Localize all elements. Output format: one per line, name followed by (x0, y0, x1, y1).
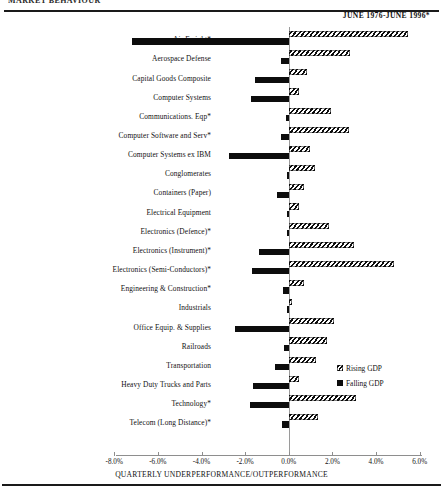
category-label: Engineering & Construction* (121, 284, 211, 293)
x-tick-mark (332, 452, 333, 456)
chart-page: MARKET BEHAVIOUR JUNE 1976-JUNE 1996* Ai… (0, 0, 443, 496)
chart-row: Technology* (0, 394, 443, 413)
x-tick-mark (420, 452, 421, 456)
bar-rising-gdp (289, 414, 318, 420)
category-label: Containers (Paper) (154, 188, 211, 197)
x-tick-mark (245, 452, 246, 456)
chart-row: Air Freight* (0, 30, 443, 49)
chart-row: Conglomerates (0, 164, 443, 183)
x-tick-label: -2.0% (236, 458, 253, 466)
bar-falling-gdp (275, 364, 289, 370)
bar-falling-gdp (252, 268, 289, 274)
bar-falling-gdp (132, 38, 289, 44)
chart-row: Containers (Paper) (0, 183, 443, 202)
bar-falling-gdp (255, 77, 289, 83)
bar-falling-gdp (251, 96, 289, 102)
chart-row: Communications. Eqp* (0, 107, 443, 126)
bar-rising-gdp (289, 69, 308, 75)
bar-falling-gdp (281, 134, 289, 140)
chart-row: Computer Systems ex IBM (0, 145, 443, 164)
bar-falling-gdp (277, 192, 289, 198)
bar-falling-gdp (281, 58, 289, 64)
bar-falling-gdp (235, 326, 288, 332)
category-label: Heavy Duty Trucks and Parts (121, 379, 211, 388)
chart-row: Industrials (0, 298, 443, 317)
bar-rising-gdp (289, 395, 357, 401)
x-tick-label: -4.0% (193, 458, 210, 466)
bar-rising-gdp (289, 280, 304, 286)
footer-rule (2, 484, 441, 486)
falling-gdp-swatch-icon (337, 380, 343, 386)
bar-falling-gdp (287, 211, 289, 217)
bar-falling-gdp (229, 153, 289, 159)
bar-falling-gdp (287, 172, 289, 178)
bar-rising-gdp (289, 261, 394, 267)
bar-falling-gdp (286, 115, 289, 121)
cropped-page-header: MARKET BEHAVIOUR (8, 0, 101, 4)
rising-gdp-swatch-icon (337, 365, 343, 371)
x-tick-label: 4.0% (369, 458, 384, 466)
bar-rising-gdp (289, 165, 315, 171)
bar-falling-gdp (250, 402, 289, 408)
bar-rising-gdp (289, 337, 327, 343)
legend-item-rising-gdp: Rising GDP (337, 362, 384, 374)
bar-falling-gdp (283, 287, 288, 293)
bar-falling-gdp (253, 383, 289, 389)
category-label: Computer Systems (153, 92, 211, 101)
x-axis-title: QUARTERLY UNDERPERFORMANCE/OUTPERFORMANC… (0, 470, 443, 479)
x-tick-label: -8.0% (106, 458, 123, 466)
bar-rising-gdp (289, 184, 304, 190)
category-label: Electronics (Instrument)* (133, 245, 211, 254)
x-tick-label: 6.0% (412, 458, 427, 466)
x-tick-label: 2.0% (325, 458, 340, 466)
chart-row: Computer Software and Serv* (0, 126, 443, 145)
category-label: Office Equip. & Supplies (134, 322, 211, 331)
category-label: Capital Goods Composite (132, 73, 211, 82)
bar-rising-gdp (289, 242, 354, 248)
chart-row: Computer Systems (0, 87, 443, 106)
category-label: Computer Systems ex IBM (128, 150, 211, 159)
bar-falling-gdp (259, 249, 288, 255)
chart-row: Capital Goods Composite (0, 68, 443, 87)
bar-falling-gdp (287, 306, 288, 312)
chart-row: Electrical Equipment (0, 202, 443, 221)
x-tick-mark (376, 452, 377, 456)
category-label: Telecom (Long Distance)* (129, 418, 211, 427)
category-label: Railroads (182, 341, 211, 350)
chart-row: Railroads (0, 336, 443, 355)
bar-rising-gdp (289, 108, 332, 114)
category-label: Electronics (Semi-Conductors)* (113, 265, 211, 274)
bar-rising-gdp (289, 299, 292, 305)
chart-row: Telecom (Long Distance)* (0, 413, 443, 432)
category-label: Electronics (Defence)* (140, 226, 211, 235)
category-label: Communications. Eqp* (139, 111, 211, 120)
category-label: Aerospace Defense (152, 54, 211, 63)
bar-falling-gdp (282, 421, 289, 427)
category-label: Electrical Equipment (146, 207, 211, 216)
bar-rising-gdp (289, 127, 349, 133)
bar-falling-gdp (284, 345, 288, 351)
bar-rising-gdp (289, 50, 350, 56)
chart-row: Electronics (Semi-Conductors)* (0, 260, 443, 279)
chart-row: Engineering & Construction* (0, 279, 443, 298)
bar-rising-gdp (289, 376, 299, 382)
category-label: Transportation (166, 360, 211, 369)
x-tick-mark (114, 452, 115, 456)
bar-rising-gdp (289, 146, 310, 152)
x-tick-mark (202, 452, 203, 456)
category-label: Conglomerates (165, 169, 211, 178)
bar-rising-gdp (289, 223, 329, 229)
chart-row: Office Equip. & Supplies (0, 317, 443, 336)
x-tick-mark (289, 452, 290, 456)
category-label: Industrials (179, 303, 211, 312)
category-label: Technology* (171, 399, 211, 408)
legend-item-falling-gdp: Falling GDP (337, 377, 384, 389)
category-label: Computer Software and Serv* (119, 131, 211, 140)
bar-rising-gdp (289, 203, 299, 209)
chart-row: Electronics (Instrument)* (0, 241, 443, 260)
chart-legend: Rising GDP Falling GDP (337, 362, 384, 392)
legend-label-falling-gdp: Falling GDP (346, 379, 384, 388)
legend-label-rising-gdp: Rising GDP (346, 364, 382, 373)
x-tick-label: 0.0% (281, 458, 296, 466)
x-tick-mark (158, 452, 159, 456)
